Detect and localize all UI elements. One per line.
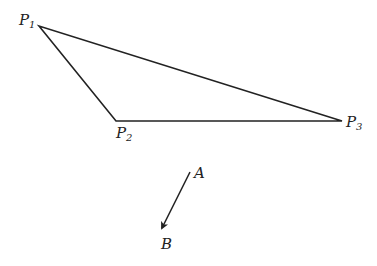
diagram-canvas: P1 P2 P3 A B bbox=[0, 0, 377, 266]
vector-arrow-a-to-b bbox=[162, 172, 190, 228]
label-p3: P3 bbox=[345, 113, 362, 132]
label-p2: P2 bbox=[115, 124, 132, 143]
label-a: A bbox=[192, 164, 205, 182]
label-p1: P1 bbox=[18, 11, 35, 30]
triangle-vector-diagram: P1 P2 P3 A B bbox=[0, 0, 377, 266]
triangle-p1-p2-p3 bbox=[39, 26, 342, 121]
label-b: B bbox=[160, 235, 172, 253]
